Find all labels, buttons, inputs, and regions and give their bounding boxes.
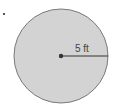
- center-point: [59, 54, 63, 58]
- radius-label: 5 ft: [75, 43, 89, 54]
- circle-diagram: 5 ft: [0, 0, 116, 111]
